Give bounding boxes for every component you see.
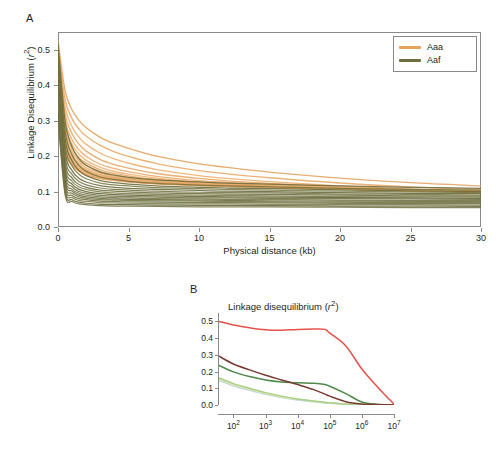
panel-b-x-tick-label: 103 [254, 419, 278, 431]
panel-b-x-tick-label: 102 [221, 419, 245, 431]
panel-b-x-tick-mark [394, 415, 395, 418]
panel-b-dark-maroon-curve [219, 356, 394, 405]
figure-root: A Linkage Disequilibrium (r2) Physical d… [0, 0, 499, 449]
panel-b-y-tick-label: 0.0 [189, 400, 213, 410]
panel-b-title: Linkage disequilibrium (r2) [228, 299, 339, 312]
panel-b-x-tick-mark [298, 415, 299, 418]
panel-b-y-axis-line [218, 313, 219, 405]
panel-b-y-tick-label: 0.1 [189, 383, 213, 393]
panel-b-letter: B [190, 283, 198, 295]
panel-b-medium-green-curve [219, 365, 394, 404]
panel-b-pale-blue-curve [219, 380, 394, 405]
panel-b-x-axis-line [218, 414, 395, 415]
panel-b-x-tick-label: 104 [286, 419, 310, 431]
panel-b-curves [219, 313, 394, 405]
panel-b-y-tick-label: 0.5 [189, 316, 213, 326]
panel-b-y-tick-mark [215, 372, 218, 373]
panel-b-x-tick-mark [330, 415, 331, 418]
panel-b-x-tick-mark [233, 415, 234, 418]
panel-b-x-tick-mark [362, 415, 363, 418]
panel-b-red-curve [219, 321, 394, 404]
panel-b-x-tick-label: 107 [382, 419, 406, 431]
panel-b-y-tick-mark [215, 405, 218, 406]
panel-b-y-tick-label: 0.4 [189, 333, 213, 343]
panel-b-x-tick-mark [266, 415, 267, 418]
panel-b-y-tick-mark [215, 321, 218, 322]
panel-b-x-tick-label: 105 [318, 419, 342, 431]
panel-b-y-tick-label: 0.3 [189, 350, 213, 360]
panel-b: B Linkage disequilibrium (r2) 0.00.10.20… [0, 0, 499, 449]
panel-b-x-tick-label: 106 [350, 419, 374, 431]
panel-b-y-tick-label: 0.2 [189, 367, 213, 377]
panel-b-y-tick-mark [215, 338, 218, 339]
panel-b-y-tick-mark [215, 388, 218, 389]
panel-b-y-tick-mark [215, 355, 218, 356]
